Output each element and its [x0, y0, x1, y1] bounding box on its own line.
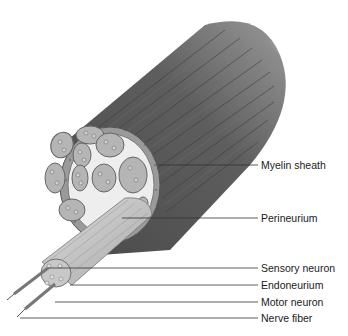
label-sensory-neuron: Sensory neuron	[261, 262, 335, 274]
label-endoneurium: Endoneurium	[261, 279, 323, 291]
label-myelin-sheath: Myelin sheath	[261, 159, 326, 171]
sensory-axon	[14, 268, 48, 294]
label-motor-neuron: Motor neuron	[261, 296, 323, 308]
label-perineurium: Perineurium	[261, 212, 318, 224]
label-nerve-fiber: Nerve fiber	[261, 312, 312, 324]
motor-axon	[25, 284, 55, 309]
